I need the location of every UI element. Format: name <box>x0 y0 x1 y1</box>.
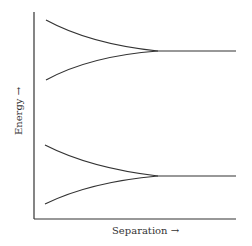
diagram-canvas <box>0 0 252 246</box>
lower-level-low-curve <box>45 176 158 204</box>
y-axis-label: Energy → <box>13 71 27 151</box>
energy-separation-diagram: Energy → Separation → <box>0 0 252 246</box>
upper-level-low-curve <box>46 51 158 80</box>
upper-level-high-curve <box>46 20 236 51</box>
up-arrow-icon: → <box>13 87 24 95</box>
right-arrow-icon: → <box>171 225 179 236</box>
lower-level-high-curve <box>45 145 236 176</box>
x-axis-label: Separation → <box>112 225 179 236</box>
